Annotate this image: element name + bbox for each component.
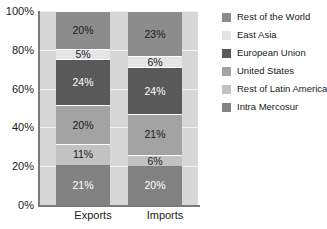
bar-segment[interactable]: 20%	[56, 105, 110, 143]
bar-segment[interactable]: 6%	[128, 155, 182, 167]
bar-segment-value-label: 21%	[144, 129, 165, 140]
y-axis-tick-label: 80%	[12, 44, 34, 55]
bar-segment[interactable]: 21%	[56, 165, 110, 205]
bar-segment[interactable]: 23%	[128, 11, 182, 56]
bar-segment[interactable]: 24%	[56, 59, 110, 105]
y-axis-tick-label: 40%	[12, 122, 34, 133]
bar-segment[interactable]: 20%	[128, 166, 182, 205]
bar-segment-value-label: 20%	[72, 120, 93, 131]
legend-item[interactable]: East Asia	[222, 26, 327, 44]
legend-swatch-icon	[222, 13, 231, 22]
legend-item-label: United States	[237, 66, 294, 76]
legend-swatch-icon	[222, 85, 231, 94]
legend-item[interactable]: Rest of the World	[222, 8, 327, 26]
bar-segment-value-label: 6%	[147, 57, 162, 68]
legend-swatch-icon	[222, 31, 231, 40]
y-axis-tick-label: 0%	[18, 200, 34, 211]
bar-segment-value-label: 5%	[75, 49, 90, 59]
legend-item[interactable]: European Union	[222, 44, 327, 62]
bar-segment[interactable]: 24%	[128, 67, 182, 114]
chart-legend: Rest of the WorldEast AsiaEuropean Union…	[222, 8, 327, 116]
legend-item-label: European Union	[237, 48, 306, 58]
bar-segment-value-label: 24%	[72, 77, 93, 88]
stacked-bar-chart: 0%20%40%60%80%100% 21%11%20%24%5%20% 20%…	[0, 0, 327, 229]
bar-segment[interactable]: 5%	[56, 49, 110, 59]
y-axis-tick-label: 60%	[12, 83, 34, 94]
legend-item[interactable]: Intra Mercosur	[222, 98, 327, 116]
bar-segment-value-label: 21%	[72, 180, 93, 191]
legend-item[interactable]: Rest of Latin America	[222, 80, 327, 98]
bar-segment-value-label: 11%	[73, 149, 93, 160]
bar-imports[interactable]: 20%6%21%24%6%23%	[128, 11, 182, 205]
legend-item-label: Rest of Latin America	[237, 84, 327, 94]
bar-segment-value-label: 20%	[144, 180, 165, 191]
x-axis-line	[38, 205, 200, 207]
bar-segment[interactable]: 20%	[56, 11, 110, 49]
legend-item-label: Intra Mercosur	[237, 102, 298, 112]
bar-segment[interactable]: 21%	[128, 114, 182, 155]
y-axis: 0%20%40%60%80%100%	[0, 0, 36, 229]
y-axis-tick-label: 100%	[6, 6, 34, 17]
bar-exports[interactable]: 21%11%20%24%5%20%	[56, 11, 110, 205]
legend-swatch-icon	[222, 67, 231, 76]
legend-swatch-icon	[222, 49, 231, 58]
bar-segment-value-label: 6%	[147, 156, 162, 167]
legend-item[interactable]: United States	[222, 62, 327, 80]
bar-segment[interactable]: 6%	[128, 56, 182, 68]
y-axis-tick-label: 20%	[12, 161, 34, 172]
bar-segment-value-label: 20%	[72, 25, 93, 36]
x-axis-label-imports: Imports	[112, 210, 218, 221]
legend-item-label: Rest of the World	[237, 12, 310, 22]
plot-area: 21%11%20%24%5%20% 20%6%21%24%6%23%	[40, 11, 198, 205]
legend-swatch-icon	[222, 103, 231, 112]
bar-segment-value-label: 23%	[144, 29, 165, 40]
legend-item-label: East Asia	[237, 30, 277, 40]
bar-segment[interactable]: 11%	[56, 144, 110, 165]
bar-segment-value-label: 24%	[144, 86, 165, 97]
